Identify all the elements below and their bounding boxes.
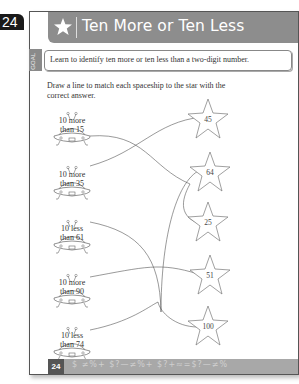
star-value-1: 45 (193, 115, 223, 124)
ship-text-line1: 10 more (52, 116, 92, 125)
spaceship-label-3: 10 lessthan 61 (52, 224, 92, 242)
star-value-5: 100 (193, 322, 223, 331)
ship-text-line2: than 35 (52, 179, 92, 188)
footer-page-number: 24 (48, 359, 64, 374)
ship-text-line2: than 15 (52, 125, 92, 134)
spaceship-label-1: 10 morethan 15 (52, 116, 92, 134)
page-tab-number: 24 (0, 14, 24, 30)
spaceship-label-5: 10 lessthan 74 (52, 331, 92, 349)
star-value-4: 51 (195, 271, 225, 280)
star-value-2: 64 (195, 168, 225, 177)
spaceship-label-4: 10 morethan 90 (52, 278, 92, 296)
ship-text-line1: 10 more (52, 278, 92, 287)
ship-text-line1: 10 more (52, 170, 92, 179)
ship-text-line1: 10 less (52, 224, 92, 233)
activity-art (30, 12, 298, 374)
footer-decoration: $ ≠%+ $?—≠%+ $?+≈=$?—≠% (72, 360, 228, 369)
ship-text-line2: than 61 (52, 233, 92, 242)
spaceship-label-2: 10 morethan 35 (52, 170, 92, 188)
ship-text-line1: 10 less (52, 331, 92, 340)
worksheet-page: Ten More or Ten Less GOAL Learn to ident… (29, 11, 299, 375)
ship-text-line2: than 90 (52, 287, 92, 296)
ship-text-line2: than 74 (52, 340, 92, 349)
footer-bar: 24 $ ≠%+ $?—≠%+ $?+≈=$?—≠% (48, 359, 298, 374)
star-value-3: 25 (193, 218, 223, 227)
